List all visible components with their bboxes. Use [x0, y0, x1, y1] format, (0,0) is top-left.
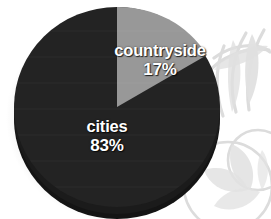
- pie-chart-figure: countryside 17% cities 83%: [0, 0, 271, 219]
- pie-label-countryside-name: countryside: [114, 41, 205, 59]
- pie-label-countryside-percent: 17%: [104, 61, 216, 79]
- pie-label-countryside: countryside 17%: [104, 42, 216, 79]
- pie-label-cities: cities 83%: [52, 118, 162, 155]
- pie-top-face: [14, 7, 220, 207]
- pie-label-cities-name: cities: [87, 117, 128, 135]
- pie-label-cities-percent: 83%: [52, 137, 162, 155]
- pie-chart: countryside 17% cities 83%: [0, 0, 271, 219]
